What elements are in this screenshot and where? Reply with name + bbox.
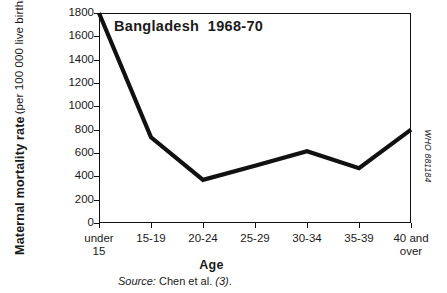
x-axis-title: Age [0,258,447,272]
x-axis-title-text: Age [199,258,224,272]
source-note: Source: Chen et al. (3). [118,275,232,287]
y-axis-title: Maternal mortality rate (per 100 000 liv… [2,18,38,228]
x-tick-mark [359,223,360,228]
y-tick-label: 1400 [58,54,94,66]
y-tick-label: 400 [58,170,94,182]
y-tick-label: 1200 [58,77,94,89]
y-tick-label-text: 1400 [58,54,94,66]
y-tick-label: 1600 [58,30,94,42]
y-tick-label-text: 0 [58,217,94,229]
source-label: Source: [118,275,156,287]
y-tick-label: 1800 [58,7,94,19]
data-line-series [99,13,411,180]
y-tick-label-text: 200 [58,194,94,206]
source-text: Chen et al. [159,275,212,287]
x-tick-mark [307,223,308,228]
y-tick-label-text: 400 [58,170,94,182]
chart-title: Bangladesh 1968-70 [114,18,263,34]
chart-figure: Maternal mortality rate (per 100 000 liv… [0,0,447,293]
x-tick-label: 40 and over [379,232,443,257]
plot-canvas [99,13,411,223]
source-reference: (3) [215,275,228,287]
x-tick-mark [255,223,256,228]
x-tick-mark [411,223,412,228]
x-tick-mark [99,223,100,228]
y-axis-title-main: Maternal mortality rate [14,116,27,255]
y-tick-label-text: 600 [58,147,94,159]
y-tick-label: 800 [58,124,94,136]
x-tick-mark [151,223,152,228]
y-axis-title-sub: (per 100 000 live births) [14,0,26,114]
y-tick-label: 600 [58,147,94,159]
y-tick-label-text: 1800 [58,7,94,19]
y-tick-label-text: 800 [58,124,94,136]
y-tick-label: 1000 [58,100,94,112]
y-tick-label-text: 1600 [58,30,94,42]
x-tick-mark [203,223,204,228]
y-tick-label: 0 [58,217,94,229]
y-tick-label: 200 [58,194,94,206]
y-tick-label-text: 1000 [58,100,94,112]
who-code-label: WHO 881184 [421,124,433,188]
source-period: . [229,275,232,287]
y-tick-label-text: 1200 [58,77,94,89]
